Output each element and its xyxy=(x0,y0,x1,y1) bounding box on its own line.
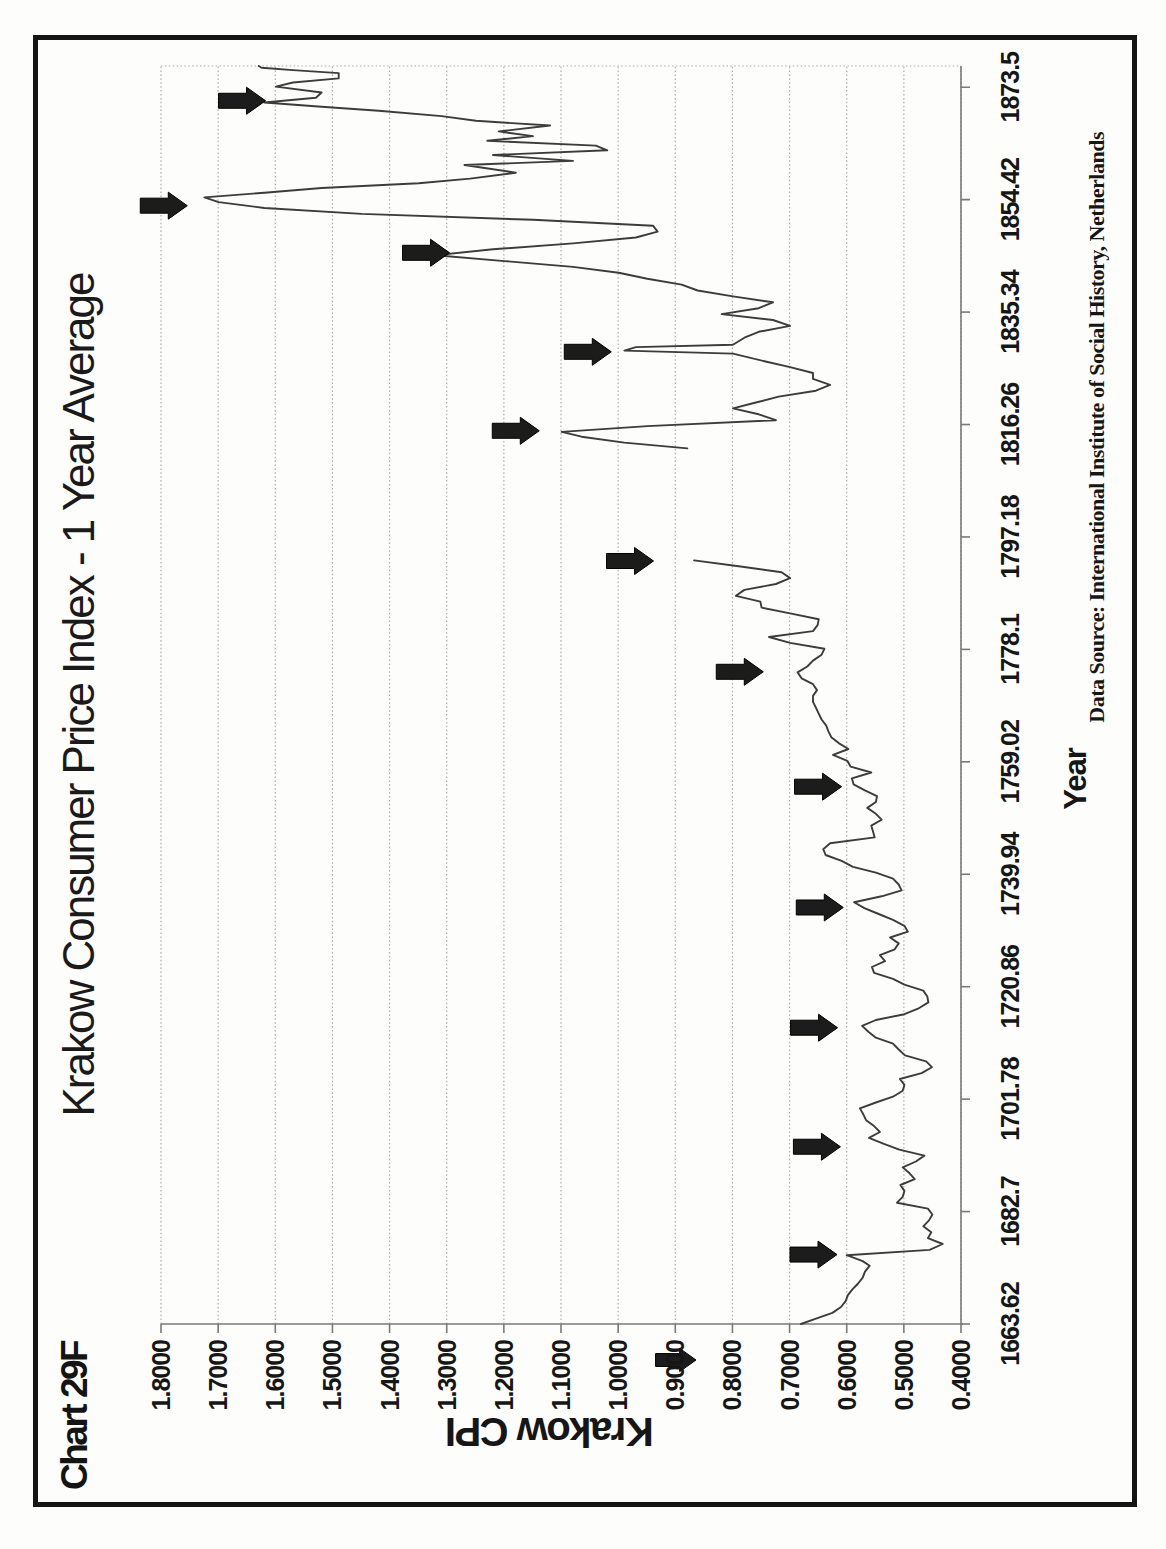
y-tick-label: 1.7000 xyxy=(204,1340,233,1440)
x-tick-label: 1663.62 xyxy=(996,1264,1025,1384)
x-tick-label: 1835.34 xyxy=(996,252,1025,372)
y-tick-label: 0.8000 xyxy=(718,1340,747,1440)
y-tick-label: 0.4000 xyxy=(947,1340,976,1440)
x-tick-label: 1720.86 xyxy=(996,927,1025,1047)
y-tick-label: 1.6000 xyxy=(261,1340,290,1440)
y-axis-title: Krakow CPI xyxy=(446,1409,653,1454)
event-arrow xyxy=(219,87,266,114)
x-tick-label: 1739.94 xyxy=(996,814,1025,934)
cpi-line xyxy=(204,66,830,448)
y-tick-label: 0.7000 xyxy=(776,1340,805,1440)
x-tick-label: 1778.1 xyxy=(996,589,1025,709)
x-tick-label: 1854.42 xyxy=(996,140,1025,260)
x-tick-label: 1816.26 xyxy=(996,365,1025,485)
x-tick-label: 1797.18 xyxy=(996,477,1025,597)
data-source-note: Data Source: International Institute of … xyxy=(1084,132,1110,723)
y-tick-label: 0.5000 xyxy=(890,1340,919,1440)
x-tick-label: 1701.78 xyxy=(996,1039,1025,1159)
scanned-page: Chart 29F Krakow Consumer Price Index - … xyxy=(0,0,1166,1549)
chart-title: Krakow Consumer Price Index - 1 Year Ave… xyxy=(54,66,104,1324)
y-tick-label: 0.9000 xyxy=(661,1340,690,1440)
event-arrow xyxy=(403,239,450,266)
event-arrow xyxy=(793,1133,840,1160)
x-tick-label: 1759.02 xyxy=(996,702,1025,822)
event-arrow xyxy=(140,192,187,219)
event-arrow xyxy=(607,547,654,574)
chart-frame-label: Chart 29F xyxy=(54,1342,96,1490)
event-arrow xyxy=(791,1014,838,1041)
event-arrow xyxy=(796,894,843,921)
x-tick-label: 1682.7 xyxy=(996,1152,1025,1272)
y-tick-label: 1.5000 xyxy=(318,1340,347,1440)
page-frame: Chart 29F Krakow Consumer Price Index - … xyxy=(33,35,1137,1507)
chart-rotated-canvas: Chart 29F Krakow Consumer Price Index - … xyxy=(38,40,1132,1502)
y-tick-label: 1.4000 xyxy=(376,1340,405,1440)
event-arrow xyxy=(716,658,763,685)
y-tick-label: 0.6000 xyxy=(833,1340,862,1440)
event-arrow xyxy=(564,338,611,365)
event-arrow xyxy=(492,417,539,444)
y-tick-label: 1.8000 xyxy=(147,1340,176,1440)
x-tick-label: 1873.5 xyxy=(996,27,1025,147)
event-arrow xyxy=(790,1241,837,1268)
event-arrow xyxy=(795,773,842,800)
plot-svg xyxy=(38,40,1132,1502)
